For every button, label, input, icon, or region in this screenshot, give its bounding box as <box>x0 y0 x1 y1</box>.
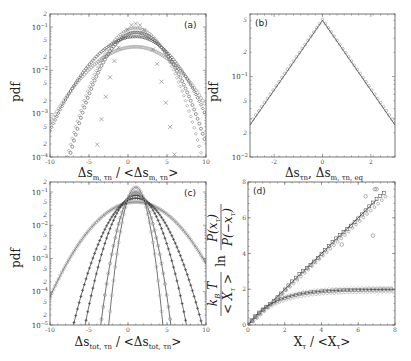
marker-diamond <box>50 126 53 129</box>
marker-star <box>179 254 182 257</box>
marker-star <box>93 252 96 255</box>
marker-diamond <box>175 76 178 79</box>
marker-star <box>91 287 94 290</box>
marker-diamond <box>386 286 389 289</box>
ytick-minor-label: 5 <box>243 97 247 104</box>
marker-star <box>109 218 112 221</box>
marker-diamond <box>305 290 308 293</box>
marker-diamond <box>194 132 197 135</box>
ytick-label: 10−4 <box>32 286 48 296</box>
marker-circle <box>83 73 86 76</box>
marker-star <box>177 287 180 290</box>
marker-star <box>155 215 158 218</box>
marker-circle <box>52 116 55 119</box>
plot-area-c <box>49 186 207 335</box>
marker-star <box>109 227 112 230</box>
plot-area-d <box>247 187 396 326</box>
panel-label-d: (d) <box>253 186 266 196</box>
marker-star <box>181 259 184 262</box>
marker-diamond <box>331 287 334 290</box>
panel-d-ylabel-ratio-num: P(xτ) <box>206 214 222 243</box>
marker-star <box>193 295 196 298</box>
ytick-label: 10−3 <box>32 253 48 263</box>
marker-circle <box>102 61 105 64</box>
marker-star <box>98 239 101 242</box>
marker-circle <box>392 290 395 293</box>
series-d-3 <box>247 286 395 327</box>
ytick-minor-label: 5 <box>43 198 47 205</box>
marker-star <box>107 232 110 235</box>
marker-circle <box>198 122 201 125</box>
panel-a-xlabel-end: > <box>168 166 178 180</box>
marker-diamond <box>375 286 378 289</box>
marker-diamond <box>200 151 203 154</box>
ytick-minor-label: 5 <box>43 123 47 130</box>
marker-star <box>90 262 93 265</box>
marker-diamond <box>302 290 305 293</box>
ytick-minor-label: 5 <box>43 298 47 305</box>
marker-star <box>95 247 98 250</box>
fit-line <box>248 289 395 325</box>
marker-diamond <box>353 286 356 289</box>
marker-star <box>200 319 203 322</box>
marker-star <box>157 219 160 222</box>
ytick-minor-label: 2 <box>42 244 47 251</box>
marker-star <box>170 259 173 262</box>
marker-star <box>110 223 113 226</box>
panel-c-ylabel: pdf <box>9 247 23 268</box>
marker-star <box>174 272 177 275</box>
marker-diamond <box>186 104 189 107</box>
series-d-4 <box>248 289 395 325</box>
marker-star <box>187 278 190 281</box>
marker-star <box>78 301 81 304</box>
xtick-label: -5 <box>86 158 92 165</box>
xtick-label: 0 <box>126 326 130 333</box>
marker-star <box>163 237 166 240</box>
panel-c: -10-5051010−52510−42510−32510−22510−12(c… <box>32 178 210 335</box>
ytick-label: 8 <box>242 178 246 185</box>
ytick-minor-label: 5 <box>243 16 247 23</box>
ytick-minor-label: 2 <box>42 311 47 318</box>
panel-b-xlabel-b-sub: m, τn, eq <box>331 174 364 182</box>
marker-star <box>163 221 166 224</box>
marker-star <box>189 284 192 287</box>
marker-star <box>79 295 82 298</box>
marker-diamond <box>361 286 364 289</box>
marker-circle <box>380 199 383 202</box>
marker-star <box>105 224 108 227</box>
marker-diamond <box>203 111 206 114</box>
xtick-label: 5 <box>165 158 169 165</box>
ytick-label: 10−3 <box>32 108 48 118</box>
xtick-label: -10 <box>45 326 55 333</box>
ytick-label: 0 <box>242 321 246 328</box>
panel-d-ylabel-ln: ln <box>214 255 228 267</box>
marker-circle <box>191 104 194 107</box>
marker-circle <box>289 297 292 300</box>
figure: -10-5051010−42510−32510−22510−12(a) -202… <box>0 0 411 361</box>
marker-star <box>97 243 100 246</box>
marker-star <box>172 266 175 269</box>
ytick-label: 2 <box>242 285 246 292</box>
marker-circle <box>340 237 343 240</box>
xtick-label: 10 <box>202 326 210 333</box>
xtick-label: 0 <box>321 158 325 165</box>
ytick-label: 10−1 <box>32 187 48 197</box>
xtick-label: -5 <box>86 326 92 333</box>
marker-diamond <box>298 291 301 294</box>
marker-diamond <box>194 93 197 96</box>
marker-star <box>90 294 93 297</box>
xtick-label: 0 <box>126 158 130 165</box>
fit-line <box>250 20 395 125</box>
ytick-minor-label: 2 <box>42 53 47 60</box>
marker-star <box>169 253 172 256</box>
marker-star <box>102 231 105 234</box>
marker-x <box>172 152 176 156</box>
panel-d-ylabel: kB T < Xτ > ln P(xτ) P(−xτ) <box>206 204 237 316</box>
ytick-minor-label: 2 <box>42 178 47 185</box>
marker-circle <box>333 244 336 247</box>
marker-circle <box>194 113 197 116</box>
panel-d-xlabel: Xτ / <Xτ> <box>294 335 351 351</box>
marker-star <box>167 227 170 230</box>
panel-a-ylabel: pdf <box>9 81 23 102</box>
panel-label-c: (c) <box>184 188 196 198</box>
